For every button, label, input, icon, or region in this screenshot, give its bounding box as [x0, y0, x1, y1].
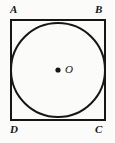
figure-drawing: [0, 0, 115, 143]
vertex-label-d: D: [10, 124, 18, 135]
geometry-figure: A B D C O: [0, 0, 115, 143]
vertex-label-a: A: [10, 4, 17, 15]
center-point-dot: [55, 67, 60, 72]
vertex-label-c: C: [95, 124, 102, 135]
center-label-o: O: [65, 64, 73, 75]
vertex-label-b: B: [95, 4, 102, 15]
